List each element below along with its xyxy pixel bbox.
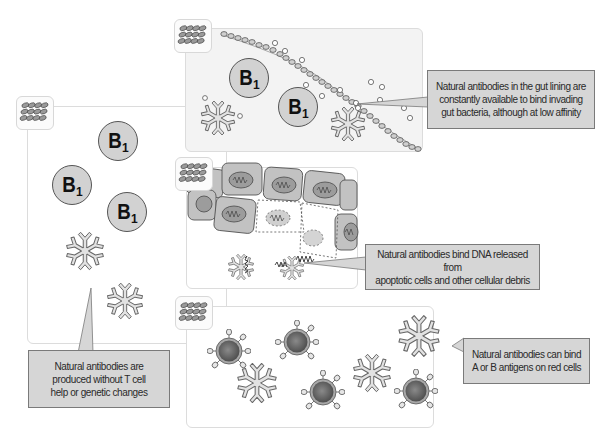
antibody-icon [398, 316, 441, 357]
antibody-cluster-icon [16, 96, 54, 130]
red-cell-icon [275, 320, 319, 360]
b1-cell: B1 [278, 87, 318, 127]
antibody-icon [353, 354, 392, 391]
red-cell-icon [394, 369, 438, 409]
b1-cell: B1 [229, 58, 269, 98]
antibody-icon [66, 232, 105, 269]
antibody-icon [200, 101, 235, 135]
antibody-icon [237, 363, 278, 402]
callout-origin: Natural antibodies are produced without … [28, 350, 170, 408]
callout-gut: Natural antibodies in the gut lining are… [427, 70, 595, 129]
antibody-cluster-icon [175, 157, 213, 191]
antibody-cluster-icon [175, 296, 213, 330]
red-cell-icon [301, 370, 345, 410]
red-cell-icon [207, 329, 251, 369]
antibody-icon [228, 254, 255, 280]
b1-cell: B1 [107, 192, 147, 232]
b1-cell: B1 [98, 121, 138, 161]
antibody-icon [330, 107, 365, 141]
antibody-icon [106, 283, 143, 319]
callout-red-cells: Natural antibodies can bind A or B antig… [463, 338, 590, 384]
callout-dna: Natural antibodies bind DNA released fro… [365, 244, 540, 290]
b1-cell: B1 [52, 165, 92, 205]
antibody-cluster-icon [174, 19, 212, 53]
